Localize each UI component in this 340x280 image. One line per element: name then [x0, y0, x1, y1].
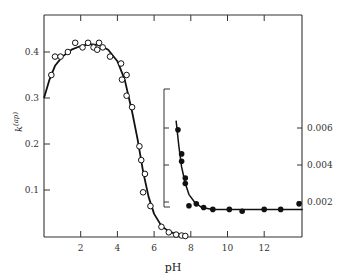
y-tick-label: 0.1: [25, 185, 39, 195]
filled-circle-point: [175, 127, 181, 133]
open-circle-point: [94, 47, 100, 53]
open-circle-point: [65, 49, 71, 55]
x-tick-label: 10: [222, 243, 234, 253]
open-circle-point: [124, 93, 130, 99]
x-tick-label: 4: [115, 243, 121, 253]
filled-circle-point: [179, 159, 185, 165]
x-tick-label: 8: [188, 243, 194, 253]
open-circle-point: [85, 40, 91, 46]
open-circle-point: [100, 45, 106, 51]
right-y-tick-label: 0.004: [307, 160, 333, 170]
open-circle-point: [166, 230, 172, 236]
filled-circle-point: [261, 207, 267, 213]
right-y-tick-label: 0.006: [307, 123, 333, 133]
y-tick-label: 0.3: [25, 93, 40, 103]
open-circle-point: [52, 54, 58, 60]
x-tick-label: 12: [258, 243, 269, 253]
filled-circle-point: [194, 201, 200, 207]
y-tick-label: 0.4: [25, 47, 40, 57]
open-circle-point: [58, 54, 64, 60]
open-circle-point: [173, 232, 179, 238]
open-circle-point: [72, 40, 78, 46]
open-circle-point: [138, 157, 144, 163]
open-circle-point: [124, 72, 130, 78]
open-circle-point: [107, 54, 113, 60]
y-axis-title: k(ap): [12, 112, 24, 132]
filled-circle-point: [182, 175, 188, 181]
filled-circle-point: [210, 207, 216, 213]
filled-circle-point: [227, 207, 233, 213]
open-circle-point: [129, 104, 135, 110]
x-axis-ticks: 24681012: [78, 15, 270, 253]
inset-axis: 0.0020.0040.006: [164, 89, 333, 207]
open-circle-point: [159, 224, 165, 230]
x-tick-label: 2: [78, 243, 84, 253]
open-circle-point: [137, 144, 143, 150]
filled-circle-point: [201, 205, 207, 211]
filled-circle-point: [296, 201, 302, 207]
open-circle-point: [119, 77, 125, 83]
svg-text:k(ap): k(ap): [12, 112, 24, 132]
y-axis-title-sup: (ap): [12, 112, 20, 126]
y-axis-ticks: 0.10.20.30.4: [25, 47, 50, 195]
open-circle-point: [140, 190, 146, 196]
open-circle-point: [142, 171, 148, 177]
filled-circle-point: [239, 208, 245, 214]
filled-circle-point: [182, 181, 188, 187]
open-circle-point: [182, 233, 188, 239]
open-circle-point: [80, 45, 86, 51]
open-circle-point: [49, 72, 55, 78]
chart-canvas: 24681012 0.10.20.30.4 0.0020.0040.006 pH…: [0, 0, 340, 280]
filled-circle-point: [278, 207, 284, 213]
filled-circle-point: [186, 203, 192, 209]
right-y-tick-label: 0.002: [307, 197, 333, 207]
open-circle-point: [118, 61, 124, 67]
y-tick-label: 0.2: [25, 139, 39, 149]
x-axis-title: pH: [165, 261, 182, 274]
x-tick-label: 6: [151, 243, 157, 253]
filled-circle-point: [179, 151, 185, 157]
inset-fit-curve: [176, 121, 303, 210]
data-points: [49, 40, 302, 239]
open-circle-point: [148, 203, 154, 209]
